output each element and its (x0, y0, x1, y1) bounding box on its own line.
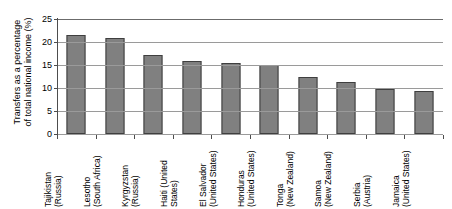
bar (298, 77, 317, 135)
x-tick-label: Serbia(Austria) (352, 141, 378, 207)
y-tick-label: 5 (47, 106, 52, 116)
bar-slot (289, 19, 328, 134)
y-tick-label: 0 (47, 129, 52, 139)
bar-series (57, 19, 443, 134)
x-tick-label-line: (Russia) (130, 175, 140, 207)
bar-chart: Transfers as a percentage of total natio… (0, 0, 452, 209)
x-tick-mark (134, 135, 135, 139)
gridline (57, 65, 443, 66)
x-label-slot: Jamaica(United States) (404, 141, 443, 209)
x-tick-label-line: Serbia (352, 182, 362, 207)
x-tick-label-line: (South Africa) (92, 156, 102, 208)
y-tick-label: 15 (42, 60, 52, 70)
bar (105, 38, 124, 134)
y-tick-label: 10 (42, 83, 52, 93)
x-tick-label: Samoa(New Zealand) (313, 141, 339, 207)
x-tick-mark (173, 135, 174, 139)
x-tick-mark (327, 135, 328, 139)
x-tick-label: Jamaica(United States) (391, 141, 417, 207)
gridline (57, 42, 443, 43)
bar (144, 55, 163, 134)
bar-slot (250, 19, 289, 134)
x-tick-label-line: Kyrgyzstan (120, 165, 130, 207)
x-tick-label-line: (United States) (208, 150, 218, 207)
y-tick-mark (54, 88, 58, 89)
x-tick-label: El Salvador(United States) (198, 141, 224, 207)
y-axis-title-line-1: Transfers as a percentage (12, 20, 23, 125)
x-tick-label-line: States) (169, 180, 179, 207)
x-tick-label-line: Jamaica (391, 175, 401, 207)
x-tick-mark (57, 135, 58, 139)
x-tick-label: Tajikistan(Russia) (43, 141, 69, 207)
x-tick-label-line: Tonga (275, 184, 285, 207)
y-tick-mark (54, 19, 58, 20)
y-tick-mark (54, 65, 58, 66)
bar-slot (57, 19, 96, 134)
x-tick-label: Tonga(New Zealand) (275, 141, 301, 207)
x-tick-label-line: (United States) (401, 150, 411, 207)
x-tick-label-line: (New Zealand) (323, 151, 333, 207)
x-tick-label-line: (United States) (246, 150, 256, 207)
bar-slot (327, 19, 366, 134)
x-tick-label-line: (Austria) (362, 175, 372, 207)
gridline (57, 88, 443, 89)
x-tick-mark (404, 135, 405, 139)
bar-slot (173, 19, 212, 134)
y-axis-tick-labels: 0510152025 (30, 13, 52, 135)
x-axis-tick-labels: Tajikistan(Russia)Lesotho(South Africa)K… (57, 141, 443, 209)
x-tick-mark (250, 135, 251, 139)
y-tick-label: 25 (42, 14, 52, 24)
x-tick-label-line: (Russia) (53, 175, 63, 207)
x-tick-label-line: El Salvador (198, 164, 208, 207)
x-tick-mark (96, 135, 97, 139)
bar-slot (96, 19, 135, 134)
gridline (57, 19, 443, 20)
x-tick-label: Honduras(United States) (236, 141, 262, 207)
x-tick-label-line: Tajikistan (43, 172, 53, 207)
x-tick-mark (289, 135, 290, 139)
x-tick-label-line: (New Zealand) (285, 151, 295, 207)
bar (260, 65, 279, 134)
x-tick-mark (211, 135, 212, 139)
bar-slot (211, 19, 250, 134)
y-tick-mark (54, 42, 58, 43)
y-tick-mark (54, 111, 58, 112)
x-tick-label: Haiti (UnitedStates) (159, 141, 185, 207)
x-tick-label: Kyrgyzstan(Russia) (120, 141, 146, 207)
bar-slot (134, 19, 173, 134)
x-tick-mark (443, 135, 444, 139)
bar (221, 63, 240, 134)
y-tick-label: 20 (42, 37, 52, 47)
plot-area (57, 19, 443, 134)
x-tick-label-line: Honduras (236, 170, 246, 207)
bar (183, 61, 202, 134)
bar-slot (404, 19, 443, 134)
bar (414, 91, 433, 134)
gridline (57, 111, 443, 112)
bar (67, 35, 86, 134)
bar (337, 82, 356, 134)
x-tick-label: Lesotho(South Africa) (82, 141, 108, 207)
x-tick-label-line: Haiti (United (159, 160, 169, 207)
x-tick-mark (366, 135, 367, 139)
x-tick-label-line: Samoa (313, 180, 323, 207)
bar-slot (366, 19, 405, 134)
x-tick-label-line: Lesotho (82, 177, 92, 207)
